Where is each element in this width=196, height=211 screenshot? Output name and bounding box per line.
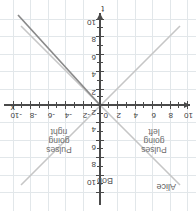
worldline-label-alice: Alice (156, 182, 176, 191)
annotation-pulses-going-left: Pulses going left (124, 127, 184, 154)
pulses-right-line-2: going (29, 136, 89, 145)
pulses-left-line-3: left (124, 127, 184, 136)
pulses-right-line-3: right (29, 127, 89, 136)
x-axis-label: x (11, 103, 16, 112)
spacetime-diagram-figure: 10 8 6 4 2 0 -2 -4 -6 -8 -10 2 4 6 8 10 … (0, 0, 196, 211)
t-tick-label-dn-2: 2 (92, 88, 96, 96)
t-tick-label-up-8: 8 (92, 160, 96, 168)
x-tick-label-10: 10 (184, 111, 193, 119)
x-tick-label-4: 4 (134, 111, 138, 119)
t-axis-label: t (101, 4, 104, 13)
annotation-pulses-going-right: Pulses going right (29, 127, 89, 154)
x-tick-label-6: 6 (152, 111, 156, 119)
t-tick-label-up-2: 2 (92, 108, 96, 116)
t-tick-label-up-4: 4 (92, 125, 96, 133)
pulses-right-line-1: Pulses (29, 145, 89, 154)
x-tick-label-2: 2 (117, 111, 121, 119)
pulses-left-line-2: going (124, 136, 184, 145)
t-tick-label-up-6: 6 (92, 143, 96, 151)
t-tick-label-dn-10: 10 (87, 18, 96, 26)
worldline-label-bob: Bob (97, 176, 113, 185)
x-tick-label-neg2: -2 (83, 111, 90, 119)
x-tick-label-8: 8 (169, 111, 173, 119)
x-tick-label-neg8: -8 (30, 111, 37, 119)
x-tick-label-neg4: -4 (65, 111, 72, 119)
x-tick-label-0: 0 (104, 111, 108, 119)
figure-rotated-container: 10 8 6 4 2 0 -2 -4 -6 -8 -10 2 4 6 8 10 … (0, 0, 196, 211)
pulses-left-line-1: Pulses (124, 145, 184, 154)
t-tick-label-dn-8: 8 (92, 35, 96, 43)
t-tick-label-up-10: 10 (87, 178, 96, 186)
x-tick-label-neg6: -6 (48, 111, 55, 119)
t-tick-label-dn-6: 6 (92, 53, 96, 61)
t-tick-label-dn-4: 4 (92, 70, 96, 78)
